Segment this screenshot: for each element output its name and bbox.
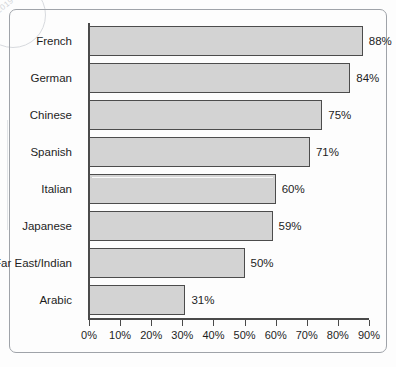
category-label: French — [0, 26, 72, 56]
x-tick — [182, 320, 183, 326]
bar-row: Spanish71% — [89, 137, 369, 167]
x-tick-label: 30% — [171, 329, 193, 341]
x-tick-label: 80% — [327, 329, 349, 341]
category-label: German — [0, 63, 72, 93]
x-tick-label: 20% — [140, 329, 162, 341]
bar-value-label: 59% — [279, 211, 302, 241]
x-tick-label: 90% — [358, 329, 380, 341]
x-tick — [245, 320, 246, 326]
bar-value-label: 84% — [356, 63, 379, 93]
x-tick-label: 40% — [202, 329, 224, 341]
bar — [89, 63, 350, 93]
bar — [89, 174, 276, 204]
x-tick — [307, 320, 308, 326]
x-tick-label: 0% — [81, 329, 97, 341]
category-label: Spanish — [0, 137, 72, 167]
bar-value-label: 71% — [316, 137, 339, 167]
category-label: Arabic — [0, 285, 72, 315]
bar-row: Italian60% — [89, 174, 369, 204]
x-tick — [276, 320, 277, 326]
bar-row: Chinese75% — [89, 100, 369, 130]
x-axis — [88, 318, 369, 320]
x-tick — [369, 320, 370, 326]
x-tick-label: 60% — [265, 329, 287, 341]
category-label: Japanese — [0, 211, 72, 241]
bar-value-label: 88% — [369, 26, 392, 56]
bar — [89, 211, 273, 241]
category-label: Chinese — [0, 100, 72, 130]
x-tick-label: 70% — [296, 329, 318, 341]
bar — [89, 100, 322, 130]
bar — [89, 248, 245, 278]
bar — [89, 137, 310, 167]
bar-row: Far East/Indian50% — [89, 248, 369, 278]
category-label: Italian — [0, 174, 72, 204]
bar-value-label: 50% — [251, 248, 274, 278]
bar-chart: 0%10%20%30%40%50%60%70%80%90% French88%G… — [89, 23, 369, 318]
bar-row: German84% — [89, 63, 369, 93]
x-tick-label: 50% — [234, 329, 256, 341]
bar — [89, 26, 363, 56]
bar-row: French88% — [89, 26, 369, 56]
x-tick — [89, 320, 90, 326]
x-tick — [213, 320, 214, 326]
x-tick — [338, 320, 339, 326]
bar-value-label: 31% — [191, 285, 214, 315]
bar — [89, 285, 185, 315]
scanned-page: 2019 0%10%20%30%40%50%60%70%80%90% Frenc… — [0, 0, 396, 367]
category-label: Far East/Indian — [0, 248, 72, 278]
bar-row: Arabic31% — [89, 285, 369, 315]
x-tick-label: 10% — [109, 329, 131, 341]
x-tick — [151, 320, 152, 326]
bar-row: Japanese59% — [89, 211, 369, 241]
bar-value-label: 75% — [328, 100, 351, 130]
bar-value-label: 60% — [282, 174, 305, 204]
x-tick — [120, 320, 121, 326]
